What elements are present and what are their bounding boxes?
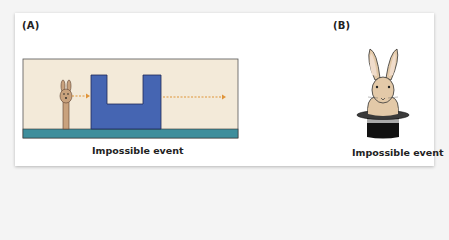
panel-b-caption: Impossible event xyxy=(352,147,444,158)
rabbit-head-icon xyxy=(372,77,394,103)
panel-a-caption: Impossible event xyxy=(92,145,184,156)
